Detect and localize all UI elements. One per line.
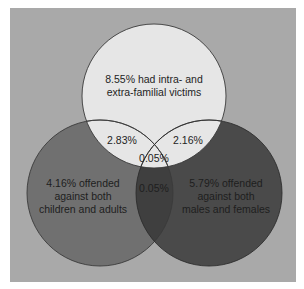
right-set-label-line1: 5.79% offended [189,177,263,189]
intersection-all-three-value: 0.05% [139,152,169,164]
intersection-left-right-value: 0.05% [139,182,169,194]
top-set-label-line2: extra-familial victims [107,86,202,98]
right-set-label-line2: against both [197,190,254,202]
right-set-label-line3: males and females [182,203,270,215]
top-set-label-line1: 8.55% had intra- and [105,73,203,85]
left-set-label-line2: against both [54,190,111,202]
left-set-label-line3: children and adults [39,203,127,215]
venn-diagram-figure: 8.55% had intra- and extra-familial vict… [0,0,304,289]
intersection-top-right-value: 2.16% [173,134,203,146]
intersection-top-left-value: 2.83% [107,134,137,146]
venn-diagram: 8.55% had intra- and extra-familial vict… [0,0,304,289]
left-set-label-line1: 4.16% offended [46,177,120,189]
